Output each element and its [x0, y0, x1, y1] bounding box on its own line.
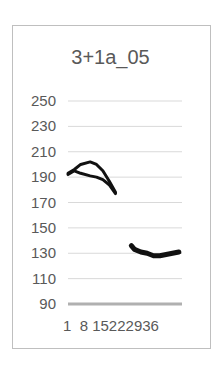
svg-text:110: 110 [32, 270, 56, 287]
x-axis-labels: 1 8 15222936 [63, 317, 159, 334]
y-axis-labels: 25023021019017015013011090 [31, 92, 56, 312]
gridlines [68, 101, 182, 304]
svg-text:90: 90 [39, 295, 56, 312]
svg-text:130: 130 [31, 244, 56, 261]
svg-text:190: 190 [31, 168, 56, 185]
series-line [68, 171, 116, 194]
series-line [131, 246, 179, 256]
svg-text:210: 210 [31, 143, 56, 160]
chart-plot: 25023021019017015013011090 1 8 15222936 [0, 0, 221, 368]
svg-text:170: 170 [31, 194, 56, 211]
data-lines [68, 162, 179, 256]
svg-text:230: 230 [31, 117, 56, 134]
svg-text:250: 250 [31, 92, 56, 109]
svg-text:150: 150 [31, 219, 56, 236]
